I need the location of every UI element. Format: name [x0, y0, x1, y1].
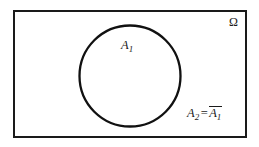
a1-complement-base: A: [209, 106, 217, 120]
venn-diagram-canvas: [0, 0, 259, 147]
venn-diagram-figure: Ω A1 A2=A1: [0, 0, 259, 147]
equals-sign: =: [199, 106, 209, 120]
a1-subscript: 1: [129, 44, 134, 54]
a2-complement-label: A2=A1: [187, 107, 221, 122]
omega-label: Ω: [229, 16, 238, 28]
a2-base: A: [187, 106, 195, 120]
a1-complement-subscript: 1: [217, 112, 222, 122]
a1-base: A: [121, 38, 129, 52]
a1-complement-group: A1: [209, 107, 221, 122]
a1-label: A1: [121, 39, 133, 54]
